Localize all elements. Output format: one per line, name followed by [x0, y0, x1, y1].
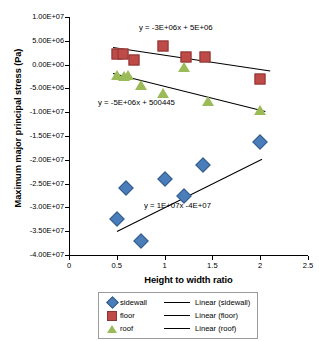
legend-line-icon — [164, 315, 190, 316]
legend-line-label: Linear (roof) — [195, 324, 236, 333]
legend-label: roof — [120, 324, 164, 333]
data-point-sidewall — [195, 157, 211, 173]
y-tick-label: -3.00E+07 — [30, 203, 64, 210]
y-tick-label: -2.50E+07 — [30, 180, 64, 187]
legend-row-floor: floorLinear (floor) — [104, 309, 253, 322]
data-point-floor — [129, 54, 140, 65]
y-tick-label: -5.00E+06 — [30, 84, 64, 91]
data-point-floor — [255, 73, 266, 84]
y-tick-label: -3.50E+07 — [30, 227, 64, 234]
data-point-sidewall — [133, 233, 149, 249]
y-tick-label: -1.50E+07 — [30, 132, 64, 139]
x-tick-label: 0 — [67, 262, 71, 270]
x-tick — [69, 256, 70, 260]
legend-line-icon — [164, 302, 190, 303]
legend-row-roof: roofLinear (roof) — [104, 322, 253, 335]
x-tick-label: 2 — [258, 262, 262, 270]
legend-line-label: Linear (sidewall) — [195, 298, 250, 307]
legend-marker-roof-icon — [104, 325, 120, 333]
data-point-sidewall — [252, 134, 268, 150]
legend-label: floor — [120, 311, 164, 320]
data-point-roof — [178, 62, 190, 72]
x-tick — [165, 256, 166, 260]
plot-area — [69, 17, 308, 255]
data-point-sidewall — [119, 181, 135, 197]
legend-line-icon — [164, 328, 190, 329]
equation-label-floor: y = -3E+06x + 5E+06 — [139, 23, 213, 32]
data-point-roof — [122, 70, 134, 80]
data-point-roof — [202, 96, 214, 106]
y-tick-label: -1.00E+07 — [30, 108, 64, 115]
data-point-floor — [118, 49, 129, 60]
legend-marker-sidewall-icon — [104, 298, 120, 307]
x-tick — [117, 256, 118, 260]
x-tick — [308, 256, 309, 260]
x-tick-label: 1 — [162, 262, 166, 270]
data-point-floor — [199, 51, 210, 62]
equation-label-sidewall: y = 1E+07x -4E+07 — [144, 201, 211, 210]
legend-marker-floor-icon — [104, 311, 120, 321]
data-point-floor — [157, 41, 168, 52]
y-tick-label: -4.00E+07 — [30, 251, 64, 258]
x-tick-label: 1.5 — [207, 262, 218, 270]
x-tick-label: 0.5 — [112, 262, 123, 270]
x-tick-label: 2.5 — [303, 262, 314, 270]
legend-line-label: Linear (floor) — [195, 311, 238, 320]
scatter-chart: Maximum major principal stress (Pa) 1.00… — [0, 0, 319, 341]
y-tick-label: -2.00E+07 — [30, 156, 64, 163]
data-point-roof — [135, 80, 147, 90]
x-tick — [260, 256, 261, 260]
y-axis-ticks: 1.00E+075.00E+060.00E+00-5.00E+06-1.00E+… — [0, 0, 69, 256]
y-tick-label: 0.00E+00 — [32, 61, 64, 68]
x-axis-title: Height to width ratio — [69, 274, 308, 285]
data-point-roof — [254, 105, 266, 115]
legend-row-sidewall: sidewallLinear (sidewall) — [104, 296, 253, 309]
data-point-sidewall — [157, 171, 173, 187]
x-tick — [212, 256, 213, 260]
chart-legend: sidewallLinear (sidewall)floorLinear (fl… — [98, 292, 258, 339]
legend-label: sidewall — [120, 298, 164, 307]
y-tick-label: 5.00E+06 — [32, 37, 64, 44]
data-point-sidewall — [109, 212, 125, 228]
data-point-floor — [180, 51, 191, 62]
data-point-roof — [157, 88, 169, 98]
y-tick-label: 1.00E+07 — [32, 13, 64, 20]
equation-label-roof: y = -5E+06x + 500445 — [98, 98, 175, 107]
